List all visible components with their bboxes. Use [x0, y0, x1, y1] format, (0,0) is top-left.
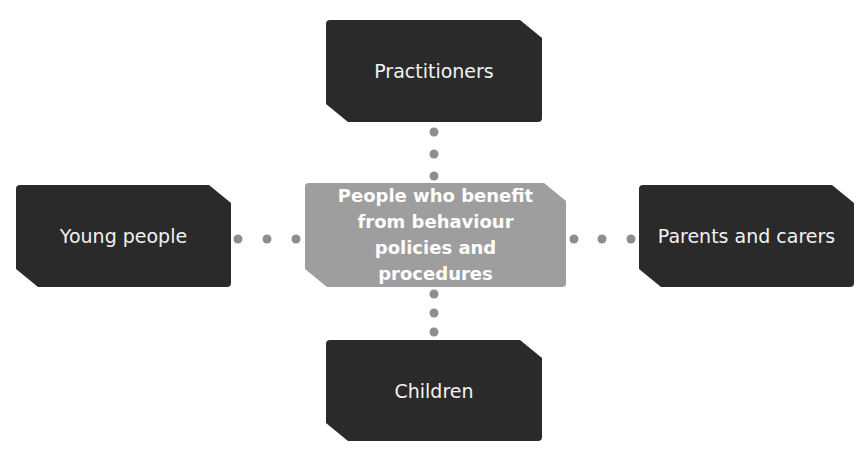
node-young-people: Young people: [16, 185, 231, 287]
node-practitioners: Practitioners: [326, 20, 542, 122]
connector-dot: [263, 235, 272, 244]
connector-dot: [430, 328, 439, 337]
node-label: Children: [394, 380, 473, 402]
center-label: People who benefit from behaviour polici…: [321, 183, 551, 287]
node-label: Parents and carers: [658, 225, 835, 247]
connector-dot: [234, 235, 243, 244]
node-label: Young people: [60, 225, 187, 247]
node-parents-and-carers: Parents and carers: [639, 185, 854, 287]
connector-dot: [430, 128, 439, 137]
connector-dot: [430, 150, 439, 159]
connector-dot: [292, 235, 301, 244]
connector-dot: [598, 235, 607, 244]
connector-dot: [627, 235, 636, 244]
connector-dot: [430, 172, 439, 181]
center-node: People who benefit from behaviour polici…: [305, 183, 566, 287]
connector-dot: [570, 235, 579, 244]
connector-dot: [430, 290, 439, 299]
connector-dot: [430, 309, 439, 318]
node-children: Children: [326, 340, 542, 441]
node-label: Practitioners: [374, 60, 494, 82]
